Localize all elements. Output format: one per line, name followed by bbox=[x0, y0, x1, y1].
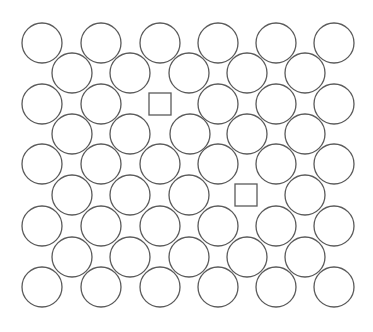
circle-particle bbox=[140, 206, 180, 246]
circle-particle bbox=[169, 175, 209, 215]
circle-particle bbox=[22, 144, 62, 184]
circle-particle bbox=[22, 23, 62, 63]
circle-particle bbox=[314, 206, 354, 246]
circle-particle bbox=[52, 114, 92, 154]
square-defect bbox=[149, 93, 171, 115]
packing-diagram bbox=[0, 0, 373, 332]
circle-particle bbox=[227, 237, 267, 277]
circle-particle bbox=[256, 84, 296, 124]
circle-particle bbox=[285, 53, 325, 93]
circle-particle bbox=[256, 267, 296, 307]
circle-particle bbox=[110, 53, 150, 93]
circle-particle bbox=[256, 144, 296, 184]
circle-particle bbox=[110, 114, 150, 154]
circle-particle bbox=[198, 267, 238, 307]
circle-particle bbox=[22, 206, 62, 246]
circle-particle bbox=[314, 144, 354, 184]
circle-particle bbox=[198, 206, 238, 246]
circle-particle bbox=[285, 114, 325, 154]
circle-particle bbox=[198, 84, 238, 124]
circle-particle bbox=[81, 23, 121, 63]
shape-layer bbox=[22, 23, 354, 307]
circle-particle bbox=[314, 84, 354, 124]
circle-particle bbox=[140, 23, 180, 63]
circle-particle bbox=[140, 267, 180, 307]
circle-particle bbox=[22, 84, 62, 124]
circle-particle bbox=[170, 114, 210, 154]
circle-particle bbox=[169, 53, 209, 93]
circle-particle bbox=[110, 175, 150, 215]
circle-particle bbox=[227, 114, 267, 154]
square-defect bbox=[235, 184, 257, 206]
circle-particle bbox=[81, 84, 121, 124]
circle-particle bbox=[81, 267, 121, 307]
circle-particle bbox=[314, 267, 354, 307]
circle-particle bbox=[198, 144, 238, 184]
circle-particle bbox=[110, 237, 150, 277]
circle-particle bbox=[52, 53, 92, 93]
circle-particle bbox=[81, 144, 121, 184]
circle-particle bbox=[81, 206, 121, 246]
circle-particle bbox=[285, 175, 325, 215]
circle-particle bbox=[52, 175, 92, 215]
circle-particle bbox=[285, 237, 325, 277]
circle-particle bbox=[314, 23, 354, 63]
circle-particle bbox=[198, 23, 238, 63]
circle-particle bbox=[22, 267, 62, 307]
circle-particle bbox=[169, 237, 209, 277]
circle-particle bbox=[52, 237, 92, 277]
circle-particle bbox=[227, 53, 267, 93]
circle-particle bbox=[140, 144, 180, 184]
circle-particle bbox=[256, 206, 296, 246]
circle-particle bbox=[256, 23, 296, 63]
